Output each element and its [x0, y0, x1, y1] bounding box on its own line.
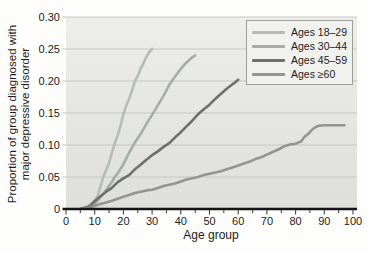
x-tick-label: 70 [261, 215, 273, 227]
x-tick-label: 50 [203, 215, 215, 227]
y-axis-title-line1: Proportion of group diagnosed with [6, 9, 19, 219]
legend-item: Ages 45–59 [252, 53, 348, 67]
x-axis-title: Age group [183, 228, 239, 242]
legend-line-swatch [252, 45, 285, 48]
y-tick-label: 0.10 [39, 139, 60, 151]
depression-proportion-chart: 00.050.100.150.200.250.30 01020304050607… [0, 0, 367, 253]
legend-item: Ages 30–44 [252, 39, 348, 53]
x-tick-label: 60 [232, 215, 244, 227]
legend: Ages 18–29Ages 30–44Ages 45–59Ages ≥60 [246, 20, 353, 85]
x-tick-label: 40 [175, 215, 187, 227]
y-tick-label: 0.20 [39, 75, 60, 87]
legend-line-swatch [252, 73, 285, 76]
x-axis-ticks [66, 210, 353, 214]
legend-label: Ages 45–59 [291, 54, 347, 66]
y-axis-title-line2: major depressive disorder [19, 9, 32, 219]
x-tick-label: 10 [89, 215, 101, 227]
y-tick-label: 0.25 [39, 43, 60, 55]
x-tick-label: 80 [289, 215, 301, 227]
legend-line-swatch [252, 59, 285, 62]
legend-line-swatch [252, 31, 285, 34]
y-axis-tick-labels: 00.050.100.150.200.250.30 [39, 11, 60, 215]
x-tick-label: 90 [318, 215, 330, 227]
y-tick-label: 0.15 [39, 107, 60, 119]
legend-item: Ages 18–29 [252, 25, 348, 39]
x-tick-label: 20 [117, 215, 129, 227]
y-tick-label: 0.30 [39, 11, 60, 23]
x-tick-label: 100 [344, 215, 362, 227]
legend-item: Ages ≥60 [252, 67, 348, 81]
x-axis-tick-labels: 0102030405060708090100 [63, 215, 362, 227]
legend-label: Ages 18–29 [291, 26, 347, 38]
legend-label: Ages 30–44 [291, 40, 347, 52]
y-tick-label: 0.05 [39, 171, 60, 183]
x-tick-label: 0 [63, 215, 69, 227]
legend-label: Ages ≥60 [291, 68, 335, 80]
y-axis-title: Proportion of group diagnosed with major… [6, 9, 32, 219]
x-tick-label: 30 [146, 215, 158, 227]
y-tick-label: 0 [54, 203, 60, 215]
